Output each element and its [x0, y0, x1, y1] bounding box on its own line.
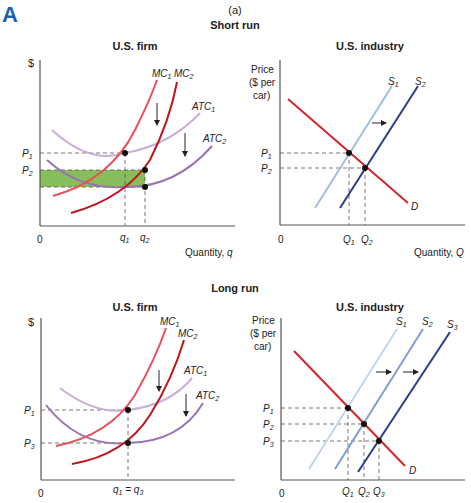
svg-text:MC2: MC2: [178, 328, 198, 340]
svg-text:0: 0: [279, 488, 285, 499]
sr-firm-chart: $ MC1 MC2 ATC1 ATC2 P1 P2 0 q1 q2 Quanti…: [22, 57, 235, 258]
svg-text:0: 0: [37, 234, 43, 245]
svg-text:Quantity, q: Quantity, q: [185, 247, 233, 258]
svg-text:S2: S2: [422, 316, 433, 328]
svg-text:P3: P3: [263, 436, 274, 448]
svg-text:P1: P1: [24, 405, 35, 417]
svg-text:P1: P1: [22, 148, 33, 160]
svg-text:car): car): [253, 90, 270, 101]
sr-industry-chart: Price ($ per car) S1 S2 D P1 P2 0 Q1 Q2 …: [249, 60, 465, 258]
svg-text:P1: P1: [263, 403, 274, 415]
svg-text:P2: P2: [261, 163, 272, 175]
mc1-curve: [56, 328, 166, 446]
svg-text:P2: P2: [22, 165, 33, 177]
svg-text:q1 = q3: q1 = q3: [113, 484, 143, 496]
atc1-curve: [52, 113, 200, 156]
svg-text:ATC1: ATC1: [183, 365, 207, 377]
s2-curve: [340, 86, 418, 208]
svg-text:S1: S1: [388, 76, 399, 88]
svg-text:Price: Price: [251, 64, 274, 75]
svg-text:0: 0: [38, 488, 44, 499]
svg-text:P1: P1: [261, 148, 272, 160]
svg-text:S3: S3: [447, 319, 458, 331]
svg-text:($ per: ($ per: [249, 77, 276, 88]
svg-text:0: 0: [278, 234, 284, 245]
svg-text:Q2: Q2: [361, 234, 373, 246]
svg-text:S1: S1: [396, 316, 407, 328]
svg-text:q1: q1: [120, 232, 130, 244]
svg-text:Quantity, Q: Quantity, Q: [414, 247, 464, 258]
svg-text:Price: Price: [252, 315, 275, 326]
svg-text:ATC2: ATC2: [195, 390, 219, 402]
svg-text:P2: P2: [263, 419, 274, 431]
svg-text:$: $: [28, 57, 34, 69]
svg-text:Q1: Q1: [343, 234, 355, 246]
lr-firm-chart: $ MC1 MC2 ATC1 ATC2 P1 P3 0 q1 = q3: [24, 316, 235, 499]
s1-curve: [315, 86, 392, 208]
svg-text:S2: S2: [415, 76, 426, 88]
svg-text:ATC1: ATC1: [191, 101, 215, 113]
svg-text:Q1: Q1: [342, 486, 354, 498]
s3-curve: [358, 332, 450, 472]
svg-text:P3: P3: [24, 438, 35, 450]
s1-curve: [309, 329, 397, 469]
svg-text:MC2: MC2: [174, 68, 194, 80]
svg-text:MC1: MC1: [152, 68, 172, 80]
svg-text:car): car): [254, 341, 271, 352]
svg-text:MC1: MC1: [160, 316, 180, 328]
svg-text:q2: q2: [140, 232, 150, 244]
svg-text:$: $: [28, 316, 34, 328]
svg-text:D: D: [411, 201, 418, 212]
svg-text:Q2: Q2: [358, 486, 370, 498]
svg-text:ATC2: ATC2: [202, 133, 226, 145]
diagram-canvas: $ MC1 MC2 ATC1 ATC2 P1 P2 0 q1 q2 Quanti…: [0, 0, 471, 503]
svg-text:Q3: Q3: [373, 486, 385, 498]
svg-text:D: D: [409, 465, 416, 476]
svg-text:($ per: ($ per: [250, 328, 277, 339]
lr-industry-chart: Price ($ per car) S1 S2 S3 D P1 P2 P3 0 …: [250, 315, 465, 499]
